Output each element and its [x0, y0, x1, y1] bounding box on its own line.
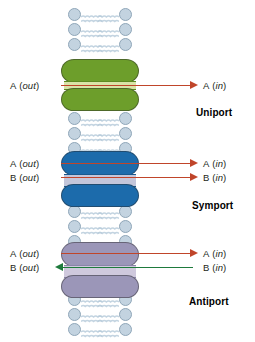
transport-protein-symport — [61, 151, 139, 207]
mode-label-uniport: Uniport — [196, 107, 232, 118]
label-b-out-symport: B (out) — [10, 172, 39, 183]
label-a-in-symport: A (in) — [203, 158, 226, 169]
protein-lobe-top — [61, 242, 139, 267]
mode-label-antiport: Antiport — [189, 296, 229, 307]
figure-canvas: A (out) A (in) Uniport A (out) B (out) A… — [0, 0, 255, 342]
protein-lobe-bottom — [61, 88, 139, 111]
arrow-line-a-antiport — [61, 253, 192, 254]
protein-lobe-top — [61, 59, 139, 83]
arrow-head-b-antiport — [55, 263, 63, 271]
arrow-line-a-symport — [61, 163, 192, 164]
panel-uniport: A (out) A (in) Uniport — [0, 0, 255, 120]
arrow-line-a-uniport — [61, 85, 192, 86]
label-b-in-antiport: B (in) — [203, 262, 226, 273]
arrow-head-a-symport — [190, 159, 198, 167]
label-a-out-uniport: A (out) — [10, 80, 39, 91]
panel-antiport: A (out) B (out) A (in) B (in) Antiport — [0, 210, 255, 342]
arrow-head-a-uniport — [190, 81, 198, 89]
label-a-in-antiport: A (in) — [203, 248, 226, 259]
label-b-in-symport: B (in) — [203, 172, 226, 183]
label-b-out-antiport: B (out) — [10, 262, 39, 273]
arrow-head-b-symport — [190, 173, 198, 181]
protein-lobe-bottom — [61, 184, 139, 207]
arrow-head-a-antiport — [190, 249, 198, 257]
panel-symport: A (out) B (out) A (in) B (in) Symport — [0, 120, 255, 210]
arrow-line-b-antiport — [63, 267, 193, 268]
protein-lobe-bottom — [61, 275, 139, 298]
label-a-out-symport: A (out) — [10, 158, 39, 169]
label-a-in-uniport: A (in) — [203, 80, 226, 91]
transport-protein-antiport — [61, 242, 139, 298]
label-a-out-antiport: A (out) — [10, 248, 39, 259]
arrow-line-b-symport — [61, 177, 192, 178]
